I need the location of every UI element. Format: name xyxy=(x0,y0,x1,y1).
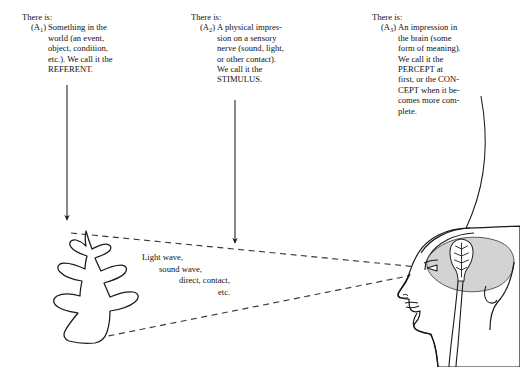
diagram-graphics xyxy=(0,0,520,367)
arrow-to-percept xyxy=(458,96,485,246)
profile-head xyxy=(398,226,520,367)
sightline-upper xyxy=(71,233,428,268)
sightline-lower xyxy=(88,272,428,340)
referent-tree xyxy=(54,231,138,343)
figure-canvas: There is: (A1) Something in the world (a… xyxy=(0,0,520,367)
